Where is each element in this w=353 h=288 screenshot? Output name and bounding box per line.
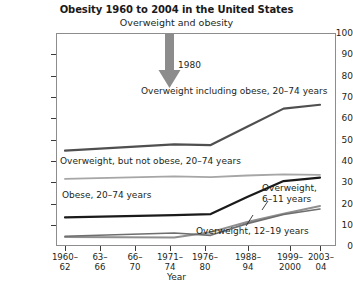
annotation-overweight-6-11: Overweight, 6–11 years bbox=[262, 183, 317, 204]
x-tick-mark-6 bbox=[290, 246, 291, 251]
annotation-overweight-including-obese: Overweight including obese, 20–74 years bbox=[141, 86, 327, 97]
x-tick-mark-1 bbox=[100, 246, 101, 251]
annotation-1980-label: 1980 bbox=[178, 60, 201, 70]
x-tick-mark-5 bbox=[248, 246, 249, 251]
x-tick-label-7: 2003– 04 bbox=[300, 252, 342, 272]
chart-title: Obesity 1960 to 2004 in the United State… bbox=[0, 4, 353, 15]
x-tick-label-1: 63– 66 bbox=[82, 252, 118, 272]
x-tick-mark-4 bbox=[205, 246, 206, 251]
y-tick-label-10: 10 bbox=[323, 221, 353, 230]
y-tick-label-20: 20 bbox=[323, 200, 353, 209]
y-tick-label-90: 90 bbox=[323, 50, 353, 59]
y-tick-label-60: 60 bbox=[323, 114, 353, 123]
y-tick-mark-60 bbox=[51, 118, 56, 119]
annotation-overweight-not-obese: Overweight, but not obese, 20–74 years bbox=[60, 156, 241, 167]
y-tick-label-40: 40 bbox=[323, 157, 353, 166]
annotation-obese: Obese, 20–74 years bbox=[62, 190, 151, 201]
x-axis-title: Year bbox=[0, 272, 353, 282]
x-tick-label-7-line1: 2003– bbox=[300, 252, 342, 262]
y-tick-mark-20 bbox=[51, 204, 56, 205]
y-tick-label-0: 0 bbox=[323, 242, 353, 251]
x-tick-label-4-line1: 1976– bbox=[182, 252, 228, 262]
y-tick-mark-10 bbox=[51, 225, 56, 226]
x-tick-label-1-line1: 63– bbox=[82, 252, 118, 262]
x-tick-label-7-line2: 04 bbox=[300, 262, 342, 272]
x-tick-mark-0 bbox=[65, 246, 66, 251]
y-tick-mark-80 bbox=[51, 76, 56, 77]
y-tick-mark-40 bbox=[51, 161, 56, 162]
chart-container: Obesity 1960 to 2004 in the United State… bbox=[0, 0, 353, 288]
annotation-overweight-6-11-line1: Overweight, bbox=[262, 183, 317, 194]
x-tick-label-4: 1976– 80 bbox=[182, 252, 228, 272]
y-tick-mark-90 bbox=[51, 54, 56, 55]
x-tick-mark-2 bbox=[135, 246, 136, 251]
y-tick-label-30: 30 bbox=[323, 178, 353, 187]
y-tick-mark-50 bbox=[51, 140, 56, 141]
y-tick-label-80: 80 bbox=[323, 72, 353, 81]
y-tick-mark-70 bbox=[51, 97, 56, 98]
y-tick-label-70: 70 bbox=[323, 93, 353, 102]
annotation-overweight-6-11-line2: 6–11 years bbox=[262, 194, 317, 205]
y-tick-label-50: 50 bbox=[323, 136, 353, 145]
y-tick-label-100: 100 bbox=[323, 29, 353, 38]
x-tick-mark-7 bbox=[320, 246, 321, 251]
annotation-overweight-12-19: Overweight, 12–19 years bbox=[196, 226, 309, 237]
x-tick-label-4-line2: 80 bbox=[182, 262, 228, 272]
x-tick-label-1-line2: 66 bbox=[82, 262, 118, 272]
x-tick-mark-3 bbox=[170, 246, 171, 251]
y-tick-mark-30 bbox=[51, 182, 56, 183]
chart-subtitle: Overweight and obesity bbox=[0, 17, 353, 28]
